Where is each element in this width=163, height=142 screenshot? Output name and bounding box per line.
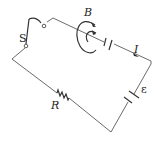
magnetic-field-label: B <box>84 7 92 18</box>
emf-label: ε <box>141 84 147 95</box>
wire-top-left <box>53 18 104 42</box>
gap-plates-icon <box>104 38 112 50</box>
wire-bottom-right <box>111 102 128 132</box>
switch-label: S <box>19 33 27 44</box>
current-label: I <box>134 44 138 55</box>
circuit-diagram <box>0 0 163 142</box>
switch-icon <box>24 18 46 48</box>
wire-bottom-left <box>69 98 111 132</box>
wire-top-right <box>114 44 151 61</box>
battery-icon <box>124 91 139 103</box>
resistor-label: R <box>51 100 59 111</box>
wire-left <box>12 48 57 93</box>
